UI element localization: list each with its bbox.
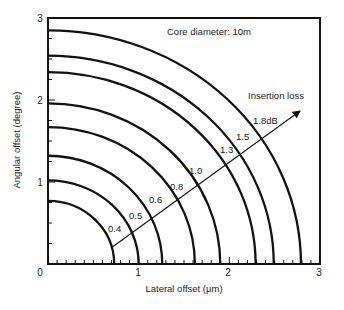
x-axis-label: Lateral offset (µm) [145, 283, 222, 294]
arc-label-1.3: 1.3 [220, 144, 233, 155]
x-tick-2: 2 [225, 267, 231, 278]
x-tick-1: 1 [135, 267, 141, 278]
core-diameter-annotation: Core diameter: 10m [167, 26, 251, 37]
loss-arc-0.8 [48, 127, 195, 264]
plot-frame [48, 18, 320, 264]
x-axis-tick-labels: 0 1 2 3 [37, 267, 322, 278]
y-tick-1: 1 [37, 177, 43, 188]
loss-arc-0.4 [48, 201, 114, 264]
arc-label-1.8: 1.8dB [253, 115, 278, 126]
arc-label-0.5: 0.5 [129, 210, 142, 221]
y-tick-2: 2 [37, 95, 43, 106]
arc-label-0.6: 0.6 [149, 194, 162, 205]
x-tick-3: 3 [316, 267, 322, 278]
y-axis-label: Angular offset (degree) [11, 92, 22, 189]
loss-arc-0.5 [48, 180, 139, 264]
x-tick-0: 0 [37, 267, 43, 278]
insertion-loss-label: Insertion loss [248, 90, 304, 101]
arc-label-0.8: 0.8 [170, 181, 183, 192]
arc-label-1.0: 1.0 [189, 165, 202, 176]
y-tick-3: 3 [37, 13, 43, 24]
insertion-loss-chart: 0 1 2 3 3 2 1 Lateral offset (µm) Angula… [0, 0, 344, 310]
arc-label-0.4: 0.4 [108, 223, 121, 234]
y-axis-ticks [48, 39, 55, 244]
arc-label-1.5: 1.5 [236, 131, 249, 142]
y-axis-tick-labels: 3 2 1 [37, 13, 43, 188]
loss-arc-0.6 [48, 156, 162, 264]
insertion-loss-arrow [111, 111, 300, 248]
loss-arc-1.8 [48, 30, 301, 264]
loss-contour-arcs [48, 30, 301, 264]
